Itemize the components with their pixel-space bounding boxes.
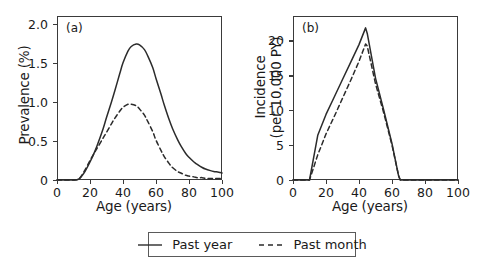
solid-line-icon — [137, 239, 163, 251]
dashed-line-icon — [258, 239, 284, 251]
y-tick-mark — [289, 180, 293, 181]
x-tick-mark — [425, 180, 426, 184]
x-tick-label: 80 — [417, 185, 433, 200]
panel-b-ylabel-line1: Incidence — [252, 22, 268, 152]
panel-b-curves — [0, 0, 481, 267]
legend-entry-past-year: Past year — [137, 237, 232, 252]
x-tick-mark — [293, 180, 294, 184]
x-tick-label: 20 — [318, 185, 334, 200]
y-tick-mark — [289, 40, 293, 41]
y-tick-label: 5 — [276, 138, 284, 153]
y-tick-mark — [289, 75, 293, 76]
x-tick-mark — [359, 180, 360, 184]
legend: Past year Past month — [148, 232, 356, 257]
y-tick-label: 10 — [268, 103, 284, 118]
legend-label-past-month: Past month — [293, 237, 366, 252]
x-tick-mark — [326, 180, 327, 184]
curve-past-month — [293, 44, 458, 180]
x-tick-label: 100 — [446, 185, 470, 200]
x-tick-label: 60 — [384, 185, 400, 200]
legend-label-past-year: Past year — [172, 237, 232, 252]
figure-canvas: (a) Prevalence (%) Age (years) 020406080… — [0, 0, 481, 267]
x-tick-label: 0 — [289, 185, 297, 200]
y-tick-label: 20 — [268, 33, 284, 48]
y-tick-label: 15 — [268, 68, 284, 83]
x-tick-mark — [392, 180, 393, 184]
panel-b-xlabel: Age (years) — [332, 198, 408, 214]
y-tick-mark — [289, 145, 293, 146]
x-tick-label: 40 — [351, 185, 367, 200]
y-tick-label: 0 — [276, 173, 284, 188]
legend-entry-past-month: Past month — [258, 237, 366, 252]
x-tick-mark — [458, 180, 459, 184]
y-tick-mark — [289, 110, 293, 111]
